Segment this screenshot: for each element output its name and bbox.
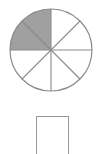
worksheet-item bbox=[0, 0, 104, 154]
answer-input-box[interactable] bbox=[36, 116, 69, 154]
fraction-circle-diagram bbox=[0, 0, 104, 100]
sector-dividers bbox=[10, 9, 92, 91]
